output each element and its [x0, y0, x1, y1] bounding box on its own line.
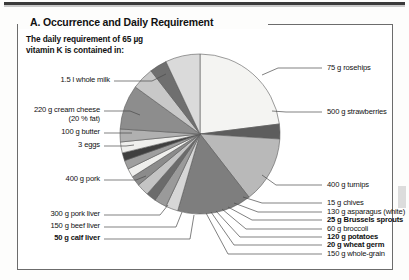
label-whole-grain: 150 g whole-grain: [327, 250, 385, 259]
pie-slice: [200, 54, 279, 134]
label-beef-liver: 150 g beef liver: [4, 222, 100, 231]
label-eggs: 3 eggs: [4, 141, 100, 150]
leader-beefliver: [104, 212, 182, 227]
leader-rosehips: [262, 68, 322, 75]
leader-chives: [243, 197, 322, 203]
label-cream-cheese-fat: (20 % fat): [4, 115, 100, 124]
leader-wheatgerm: [211, 212, 322, 245]
label-whole-milk: 1.5 l whole milk: [10, 76, 110, 85]
leader-asparagus: [234, 203, 322, 212]
leader-brussels: [228, 207, 322, 220]
label-rosehips: 75 g rosehips: [327, 64, 371, 73]
label-butter: 100 g butter: [4, 128, 100, 137]
page-edge-artifact: [398, 186, 406, 208]
leader-strawberries: [272, 111, 322, 112]
pie-slice-group: [120, 54, 280, 214]
figure-page: A. Occurrence and Daily Requirement The …: [0, 0, 409, 280]
leader-porkliver: [104, 205, 168, 215]
leader-turnips: [262, 175, 322, 185]
label-pork-liver: 300 g pork liver: [4, 210, 100, 219]
label-turnips: 400 g turnips: [327, 181, 369, 190]
label-calf-liver: 50 g calf liver: [4, 234, 100, 243]
label-pork: 400 g pork: [4, 175, 100, 184]
leader-potatoes: [216, 211, 322, 237]
label-strawberries: 500 g strawberries: [327, 108, 387, 117]
